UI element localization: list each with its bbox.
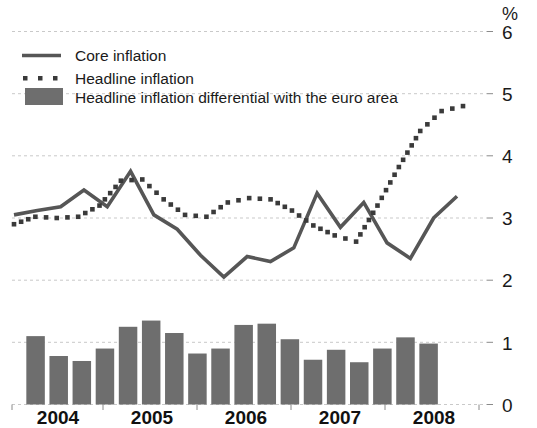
headline-dot <box>432 115 437 120</box>
headline-dot <box>54 216 59 221</box>
chart-canvas: % 6 5 4 3 2 1 0 2004 2005 2006 2007 20 <box>0 0 537 428</box>
headline-dot <box>461 104 466 109</box>
headline-dot <box>26 217 31 222</box>
headline-dot <box>183 213 188 218</box>
legend-label-core-inflation: Core inflation <box>75 47 166 64</box>
bar-2007Q4 <box>373 349 392 405</box>
headline-dot <box>226 200 231 205</box>
headline-dot <box>343 236 348 241</box>
headline-dot <box>409 143 414 148</box>
x-axis-label-2008: 2008 <box>413 407 455 428</box>
headline-dot <box>140 177 145 182</box>
headline-dot <box>388 180 393 185</box>
headline-dot <box>12 222 17 227</box>
headline-dot <box>247 196 252 201</box>
bar-2006Q3 <box>258 324 277 405</box>
headline-dot <box>325 230 330 235</box>
headline-dot <box>236 198 241 203</box>
x-axis-label-2004: 2004 <box>37 407 80 428</box>
headline-dot <box>290 208 295 213</box>
bar-2006Q4 <box>281 339 300 404</box>
bar-2005Q2 <box>142 321 161 405</box>
bar-2005Q3 <box>165 333 184 404</box>
bar-2007Q1 <box>304 360 323 405</box>
headline-dot <box>362 225 367 230</box>
y-axis-label-1: 1 <box>502 333 513 354</box>
headline-dot <box>90 207 95 212</box>
legend-marker-headline-inflation <box>23 76 58 81</box>
bar-2006Q2 <box>234 325 253 405</box>
headline-dot <box>154 190 159 195</box>
bar-2005Q4 <box>188 354 207 405</box>
y-axis-label-0: 0 <box>502 395 513 416</box>
headline-dot <box>19 219 24 224</box>
bar-2008Q1 <box>396 337 415 404</box>
y-axis-unit-label: % <box>502 4 518 24</box>
headline-dot <box>103 197 108 202</box>
headline-dot <box>83 211 88 216</box>
headline-dot <box>425 122 430 127</box>
headline-dot <box>33 214 38 219</box>
headline-dot <box>108 191 113 196</box>
bar-2006Q1 <box>211 349 230 405</box>
headline-dot <box>418 129 423 134</box>
bars-series <box>26 321 438 405</box>
x-axis-labels: 2004 2005 2006 2007 2008 <box>37 407 455 428</box>
headline-dot <box>384 188 389 193</box>
headline-dot <box>129 178 134 183</box>
headline-dot <box>439 109 444 114</box>
y-axis-label-5: 5 <box>502 84 513 105</box>
headline-dot <box>414 136 419 141</box>
headline-dot <box>168 202 173 207</box>
y-axis-label-6: 6 <box>502 22 513 43</box>
headline-dot <box>392 172 397 177</box>
headline-dot <box>397 165 402 170</box>
legend-label-differential: Headline inflation differential with the… <box>75 89 398 106</box>
bar-2004Q4 <box>96 349 115 405</box>
headline-dot <box>304 218 309 223</box>
bar-2005Q1 <box>119 327 138 405</box>
headline-dot <box>371 210 376 215</box>
legend-label-headline-inflation: Headline inflation <box>75 70 194 87</box>
bar-2008Q2 <box>419 344 438 405</box>
headline-dot <box>283 205 288 210</box>
headline-dot <box>119 178 124 183</box>
headline-dot <box>379 196 384 201</box>
bar-2004Q3 <box>73 361 92 405</box>
headline-dot <box>268 197 273 202</box>
y-axis-label-3: 3 <box>502 208 513 229</box>
x-axis-label-2006: 2006 <box>225 407 267 428</box>
headline-dot <box>358 232 363 237</box>
headline-dot <box>44 215 49 220</box>
headline-dot <box>76 214 81 219</box>
y-axis-label-2: 2 <box>502 270 513 291</box>
headline-dot <box>332 233 337 238</box>
headline-dot <box>318 226 323 231</box>
headline-inflation-dotted-line <box>12 104 466 244</box>
bar-2004Q1 <box>26 336 45 404</box>
legend-marker-differential <box>25 88 63 105</box>
headline-dot <box>311 223 316 228</box>
headline-dot <box>193 214 198 219</box>
headline-dot <box>367 218 372 223</box>
headline-dot <box>450 106 455 111</box>
bar-2004Q2 <box>49 356 67 404</box>
headline-dot <box>375 203 380 208</box>
headline-dot <box>258 196 263 201</box>
headline-dot <box>354 239 359 244</box>
x-axis-label-2007: 2007 <box>319 407 361 428</box>
headline-dot <box>176 207 181 212</box>
headline-dot <box>275 201 280 206</box>
headline-dot <box>297 213 302 218</box>
x-axis-label-2005: 2005 <box>131 407 174 428</box>
headline-dot <box>113 185 118 190</box>
bar-2007Q2 <box>327 350 346 405</box>
inflation-chart: % 6 5 4 3 2 1 0 2004 2005 2006 2007 20 <box>0 0 537 428</box>
y-axis-labels: 6 5 4 3 2 1 0 <box>502 22 513 416</box>
headline-dot <box>218 205 223 210</box>
headline-dot <box>161 197 166 202</box>
headline-dot <box>405 150 410 155</box>
headline-dot <box>211 210 216 215</box>
y-axis-ticks <box>487 32 493 405</box>
y-axis-label-4: 4 <box>502 146 513 167</box>
